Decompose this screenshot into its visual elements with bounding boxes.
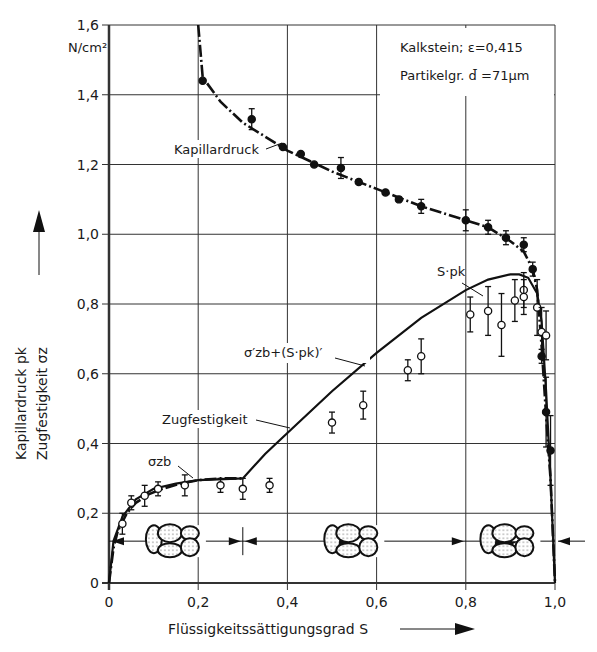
data-point bbox=[502, 234, 509, 241]
data-point bbox=[511, 297, 518, 304]
chart: 00,20,40,60,81,000,20,40,60,81,01,21,41,… bbox=[0, 0, 597, 652]
tick-labels: 00,20,40,60,81,000,20,40,60,81,01,21,41,… bbox=[77, 17, 566, 610]
data-point bbox=[311, 161, 318, 168]
data-point bbox=[355, 178, 362, 185]
particle-cluster-icon bbox=[324, 524, 384, 557]
s-pk-label: S·pk bbox=[437, 264, 466, 279]
x-tick-label: 0,2 bbox=[187, 594, 209, 610]
data-point bbox=[529, 266, 536, 273]
data-point bbox=[328, 419, 335, 426]
y-tick-label: 0 bbox=[90, 575, 99, 591]
data-point bbox=[547, 447, 554, 454]
data-point bbox=[485, 224, 492, 231]
y-tick-label: 0,2 bbox=[77, 505, 99, 521]
data-point bbox=[404, 367, 411, 374]
y-axis-title-1: Kapillardruck pk bbox=[13, 346, 29, 460]
y-tick-label: 1,4 bbox=[77, 87, 99, 103]
data-point bbox=[119, 520, 126, 527]
y-tick-label: 1,0 bbox=[77, 226, 99, 242]
data-point bbox=[542, 332, 549, 339]
zugfestigkeit-label: Zugfestigkeit bbox=[162, 412, 247, 427]
data-point bbox=[217, 482, 224, 489]
data-point bbox=[520, 293, 527, 300]
data-point bbox=[128, 499, 135, 506]
kapillardruck-label: Kapillardruck bbox=[174, 142, 259, 157]
data-point bbox=[199, 77, 206, 84]
particle-diagrams bbox=[109, 524, 585, 557]
data-point bbox=[382, 189, 389, 196]
particle-cluster-icon bbox=[146, 524, 206, 557]
data-point bbox=[542, 409, 549, 416]
y-tick-label: 0,6 bbox=[77, 366, 99, 382]
data-point bbox=[337, 164, 344, 171]
data-point bbox=[467, 311, 474, 318]
y-tick-label: 1,2 bbox=[77, 157, 99, 173]
data-point bbox=[248, 116, 255, 123]
y-tick-label: 0,8 bbox=[77, 296, 99, 312]
y-tick-label: 1,6 bbox=[77, 17, 99, 33]
data-point bbox=[279, 143, 286, 150]
data-point bbox=[239, 485, 246, 492]
y-axis-title-2: Zugfestigkeit σz bbox=[34, 347, 50, 460]
unit-label: N/cm² bbox=[68, 40, 107, 55]
data-point bbox=[418, 353, 425, 360]
x-tick-label: 0,4 bbox=[276, 594, 298, 610]
data-point bbox=[462, 217, 469, 224]
x-tick-label: 1,0 bbox=[544, 594, 566, 610]
data-point bbox=[266, 482, 273, 489]
data-point bbox=[418, 203, 425, 210]
x-tick-label: 0 bbox=[105, 594, 114, 610]
data-point bbox=[485, 307, 492, 314]
sigma-zb-label: σzb bbox=[148, 454, 171, 469]
data-point bbox=[498, 321, 505, 328]
x-tick-label: 0,8 bbox=[455, 594, 477, 610]
particle-cluster-icon bbox=[480, 524, 540, 557]
particle-size-label: Partikelgr. d̄ =71µm bbox=[400, 68, 529, 83]
data-point bbox=[360, 402, 367, 409]
y-tick-label: 0,4 bbox=[77, 436, 99, 452]
material-label: Kalkstein; ε=0,415 bbox=[400, 40, 523, 55]
data-point bbox=[520, 241, 527, 248]
annotation-box bbox=[380, 28, 554, 96]
data-point bbox=[154, 485, 161, 492]
data-point bbox=[395, 196, 402, 203]
x-tick-label: 0,6 bbox=[365, 594, 387, 610]
data-point bbox=[181, 482, 188, 489]
x-axis-title: Flüssigkeitssättigungsgrad S bbox=[168, 621, 368, 637]
data-point bbox=[297, 150, 304, 157]
sum-label: σ′zb+(S·pk)′ bbox=[244, 345, 322, 360]
data-point bbox=[141, 492, 148, 499]
